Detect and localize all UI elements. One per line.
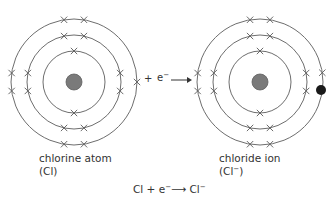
nucleus-icon — [252, 74, 268, 90]
equation-arrow-icon: ⟶ — [171, 183, 186, 195]
equation: Cl + e−⟶ Cl− — [133, 183, 206, 195]
middle-plus-sign: + — [144, 73, 152, 84]
equation-product-charge: − — [200, 183, 206, 191]
gained-electron-dot-icon — [316, 85, 326, 95]
middle-electron: e− — [157, 72, 169, 83]
equation-reactant: Cl — [133, 183, 143, 195]
chloride-ion-symbol: (Cl−) — [219, 165, 243, 177]
symbol-end: ) — [239, 165, 243, 177]
symbol-base: (Cl — [219, 165, 233, 177]
chlorine-atom-diagram — [8, 17, 140, 148]
equation-plus: + — [147, 183, 156, 195]
nucleus-icon — [66, 74, 82, 90]
chlorine-atom-symbol: (Cl) — [39, 165, 57, 177]
chloride-ion-label: chloride ion — [219, 152, 280, 164]
chloride-ion-diagram — [194, 17, 326, 148]
equation-product: Cl — [190, 183, 200, 195]
reaction-arrow-icon — [171, 77, 192, 83]
chlorine-atom-label: chlorine atom — [39, 152, 112, 164]
electron-charge: − — [163, 71, 169, 79]
